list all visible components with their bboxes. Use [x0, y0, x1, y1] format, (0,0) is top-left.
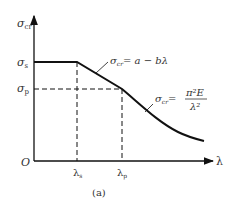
x-axis-label: λ — [216, 155, 223, 168]
sigma-s-label: σs — [17, 56, 29, 70]
linear-leader — [96, 62, 108, 73]
euler-formula-denominator: λ² — [189, 101, 200, 112]
stress-curve — [34, 62, 204, 141]
lambda-p-label: λp — [117, 167, 127, 180]
euler-formula-numerator: π²E — [185, 87, 205, 98]
figure-caption: (a) — [92, 187, 106, 198]
linear-formula: σcr= a − bλ — [110, 55, 168, 67]
lambda-s-label: λs — [73, 167, 82, 179]
euler-formula-lhs: σcr= — [155, 93, 176, 105]
critical-stress-diagram: σcr σs σp O λ λs λp σcr= a − bλ σcr= π²E… — [0, 0, 231, 210]
y-axis-label: σcr — [17, 17, 32, 31]
sigma-p-label: σp — [17, 82, 30, 96]
origin-label: O — [21, 156, 30, 169]
euler-leader — [145, 104, 153, 112]
